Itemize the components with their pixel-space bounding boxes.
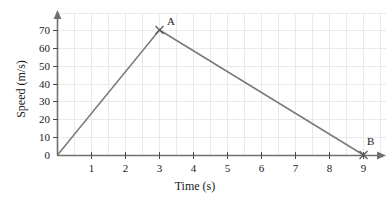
x-tick-label-5: 5 xyxy=(217,163,238,174)
x-tick-label-8: 8 xyxy=(319,163,340,174)
x-tick-label-9: 9 xyxy=(353,163,374,174)
point-label-b: B xyxy=(367,136,374,147)
y-tick-label-60: 60 xyxy=(24,43,50,54)
y-tick-label-10: 10 xyxy=(24,132,50,143)
x-tick-label-6: 6 xyxy=(251,163,272,174)
x-tick-label-3: 3 xyxy=(149,163,170,174)
x-tick-label-7: 7 xyxy=(285,163,306,174)
point-label-a: A xyxy=(167,16,175,27)
speed-time-chart: 0 10 20 30 40 50 60 70 1 2 3 4 5 6 7 8 9… xyxy=(0,0,390,199)
x-tick-label-1: 1 xyxy=(81,163,102,174)
y-axis xyxy=(54,10,62,155)
x-tick-label-2: 2 xyxy=(115,163,136,174)
x-axis xyxy=(57,152,386,160)
grid-horizontal xyxy=(57,14,386,156)
y-tick-label-70: 70 xyxy=(24,25,50,36)
x-axis-title: Time (s) xyxy=(0,180,390,192)
y-tick-label-0: 0 xyxy=(24,150,50,161)
x-tick-label-4: 4 xyxy=(183,163,204,174)
y-axis-title: Speed (m/s) xyxy=(15,29,27,149)
